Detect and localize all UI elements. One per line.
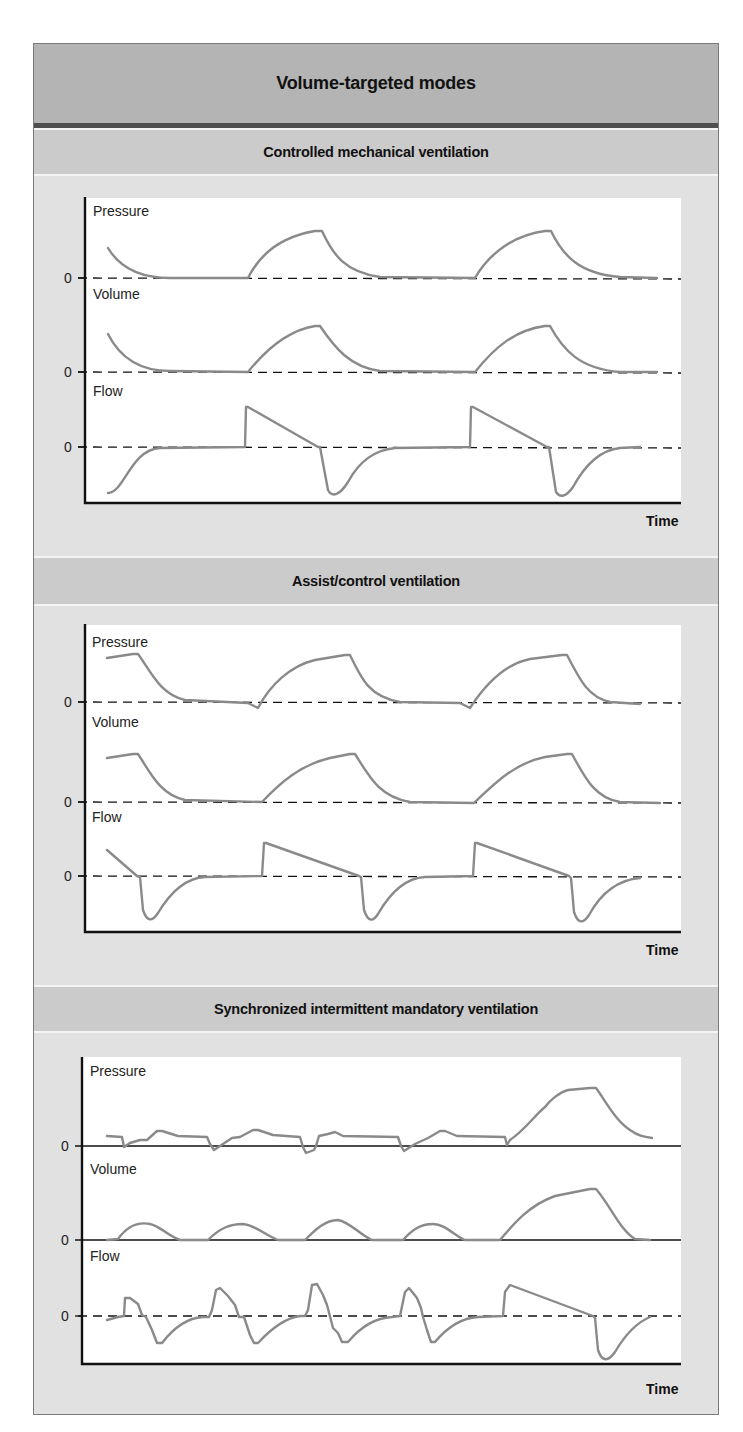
zero-label: 0 xyxy=(64,270,72,286)
plot-area-cmv xyxy=(85,198,681,503)
trace-label-pressure: Pressure xyxy=(93,203,149,219)
trace-label-flow: Flow xyxy=(90,1248,120,1264)
trace-label-volume: Volume xyxy=(93,286,140,302)
x-axis-label: Time xyxy=(646,513,678,529)
zero-label: 0 xyxy=(64,694,72,710)
trace-label-flow: Flow xyxy=(93,383,123,399)
zero-label: 0 xyxy=(61,1138,69,1154)
zero-label: 0 xyxy=(64,364,72,380)
x-axis-label: Time xyxy=(646,1381,678,1397)
x-axis-label: Time xyxy=(646,942,678,958)
zero-label: 0 xyxy=(64,794,72,810)
zero-label: 0 xyxy=(61,1308,69,1324)
trace-label-volume: Volume xyxy=(92,714,139,730)
zero-label: 0 xyxy=(64,868,72,884)
zero-label: 0 xyxy=(61,1232,69,1248)
trace-label-flow: Flow xyxy=(92,809,122,825)
trace-label-pressure: Pressure xyxy=(92,634,148,650)
trace-label-volume: Volume xyxy=(90,1161,137,1177)
plot-area-ac xyxy=(85,625,681,932)
trace-label-pressure: Pressure xyxy=(90,1063,146,1079)
zero-label: 0 xyxy=(64,439,72,455)
